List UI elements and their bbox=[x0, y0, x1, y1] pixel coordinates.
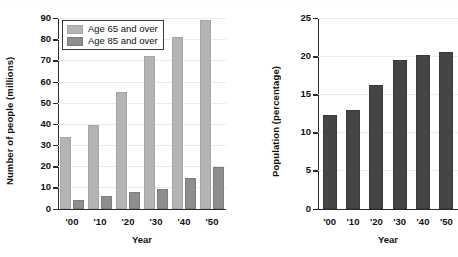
bar-age-85-and-over-00 bbox=[73, 200, 84, 209]
gridline bbox=[318, 18, 458, 19]
left-chart-x-axis-title: Year bbox=[58, 234, 226, 245]
bar-population-percentage--40 bbox=[416, 55, 430, 208]
y-axis-tick bbox=[53, 18, 58, 19]
y-axis-tick bbox=[313, 94, 318, 95]
gridline bbox=[58, 18, 226, 19]
y-axis-tick-label: 20 bbox=[40, 161, 51, 171]
chart-panel-population-percentage: Population (percentage) 0510152025 '00'1… bbox=[232, 0, 458, 257]
y-axis-tick bbox=[313, 209, 318, 210]
x-axis-tick-label: '00 bbox=[323, 216, 336, 227]
chart-panel-number-of-people: Number of people (millions) 010203040506… bbox=[0, 0, 232, 257]
y-axis-tick bbox=[53, 166, 58, 167]
y-axis-tick-label: 20 bbox=[300, 51, 311, 61]
right-chart-y-axis-line bbox=[318, 18, 319, 210]
x-axis-tick-label: '40 bbox=[178, 216, 191, 227]
y-axis-tick bbox=[53, 39, 58, 40]
figure-two-bar-charts: Number of people (millions) 010203040506… bbox=[0, 0, 458, 257]
bar-age-65-and-over-40 bbox=[172, 37, 183, 209]
x-axis-tick-label: '30 bbox=[150, 216, 163, 227]
y-axis-tick-label: 40 bbox=[40, 119, 51, 129]
x-axis-tick-label: '40 bbox=[417, 216, 430, 227]
x-axis-tick-label: '10 bbox=[347, 216, 360, 227]
bar-age-65-and-over-20 bbox=[116, 92, 127, 208]
bar-age-85-and-over-30 bbox=[157, 189, 168, 209]
bar-age-65-and-over-00 bbox=[60, 137, 71, 209]
gridline bbox=[318, 132, 458, 133]
bar-age-65-and-over-50 bbox=[200, 20, 211, 208]
gridline bbox=[318, 94, 458, 95]
y-axis-tick-label: 0 bbox=[306, 204, 311, 214]
y-axis-tick-label: 25 bbox=[300, 13, 311, 23]
left-chart-y-axis-title: Number of people (millions) bbox=[4, 36, 15, 206]
y-axis-tick bbox=[53, 103, 58, 104]
gridline bbox=[318, 56, 458, 57]
x-axis-tick-label: '50 bbox=[206, 216, 219, 227]
y-axis-tick bbox=[313, 56, 318, 57]
right-chart-y-axis-title: Population (percentage) bbox=[270, 36, 281, 206]
legend-swatch-age-65-and-over bbox=[67, 25, 83, 34]
y-axis-tick-label: 60 bbox=[40, 77, 51, 87]
y-axis-tick bbox=[53, 187, 58, 188]
legend-item-age-65-and-over: Age 65 and over bbox=[67, 24, 158, 34]
y-axis-tick bbox=[53, 82, 58, 83]
x-axis-tick-label: '30 bbox=[393, 216, 406, 227]
legend-label-age-85-and-over: Age 85 and over bbox=[88, 36, 158, 46]
bar-population-percentage--30 bbox=[393, 60, 407, 209]
y-axis-tick bbox=[53, 124, 58, 125]
bar-age-65-and-over-10 bbox=[88, 125, 99, 209]
y-axis-tick-label: 50 bbox=[40, 98, 51, 108]
x-axis-tick-label: '00 bbox=[66, 216, 79, 227]
bar-age-65-and-over-30 bbox=[144, 56, 155, 208]
bar-population-percentage--00 bbox=[323, 115, 337, 209]
y-axis-tick-label: 70 bbox=[40, 56, 51, 66]
bar-age-85-and-over-50 bbox=[213, 167, 224, 208]
bar-population-percentage--20 bbox=[369, 85, 383, 209]
legend-label-age-65-and-over: Age 65 and over bbox=[88, 24, 158, 34]
x-axis-tick-label: '10 bbox=[94, 216, 107, 227]
y-axis-tick bbox=[53, 209, 58, 210]
y-axis-tick bbox=[313, 170, 318, 171]
y-axis-tick bbox=[53, 145, 58, 146]
bar-population-percentage--10 bbox=[346, 110, 360, 209]
gridline bbox=[318, 170, 458, 171]
y-axis-tick-label: 15 bbox=[300, 89, 311, 99]
y-axis-tick-label: 10 bbox=[40, 183, 51, 193]
x-axis-tick-label: '20 bbox=[122, 216, 135, 227]
x-axis-tick-label: '50 bbox=[440, 216, 453, 227]
right-chart-x-axis-line bbox=[318, 209, 458, 210]
y-axis-tick-label: 80 bbox=[40, 34, 51, 44]
legend-swatch-age-85-and-over bbox=[67, 37, 83, 46]
legend-item-age-85-and-over: Age 85 and over bbox=[67, 36, 158, 46]
bar-population-percentage--50 bbox=[439, 52, 453, 209]
right-chart-plot-area: 0510152025 '00'10'20'30'40'50 bbox=[318, 18, 458, 210]
right-chart-x-axis-title: Year bbox=[318, 234, 458, 245]
y-axis-tick bbox=[53, 60, 58, 61]
y-axis-tick bbox=[313, 132, 318, 133]
y-axis-tick bbox=[313, 18, 318, 19]
y-axis-tick-label: 90 bbox=[40, 13, 51, 23]
left-chart-x-axis-line bbox=[58, 209, 226, 210]
y-axis-tick-label: 30 bbox=[40, 140, 51, 150]
bar-age-85-and-over-40 bbox=[185, 178, 196, 209]
y-axis-tick-label: 0 bbox=[46, 204, 51, 214]
x-axis-tick-label: '20 bbox=[370, 216, 383, 227]
y-axis-tick-label: 5 bbox=[306, 166, 311, 176]
bar-age-85-and-over-20 bbox=[129, 192, 140, 209]
y-axis-tick-label: 10 bbox=[300, 128, 311, 138]
bar-age-85-and-over-10 bbox=[101, 196, 112, 209]
left-chart-legend: Age 65 and over Age 85 and over bbox=[62, 20, 164, 50]
